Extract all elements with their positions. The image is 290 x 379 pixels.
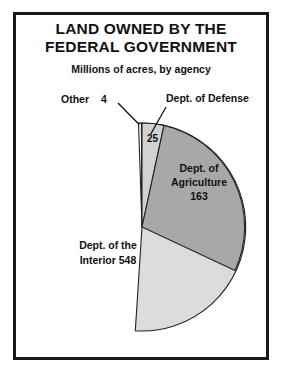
callout-value-other: 4 — [101, 93, 107, 105]
callout-label-other: Other — [61, 93, 89, 105]
slice-label-agriculture-line-1: Dept. of — [179, 162, 219, 174]
slice-label-interior-line-1: Dept. of the — [79, 239, 137, 251]
chart-figure: LAND OWNED BY THE FEDERAL GOVERNMENT Mil… — [0, 0, 290, 379]
slice-value-defense: 25 — [147, 133, 159, 144]
leader-line-other — [118, 103, 139, 125]
slice-label-interior-line-2: Interior 548 — [80, 254, 137, 266]
slice-value-agriculture: 163 — [190, 190, 208, 202]
pie-chart: Other 4 Dept. of Defense 25 Dept. of Agr… — [0, 0, 290, 379]
callout-label-defense: Dept. of Defense — [166, 92, 249, 104]
slice-label-agriculture-line-2: Agriculture — [171, 176, 227, 188]
